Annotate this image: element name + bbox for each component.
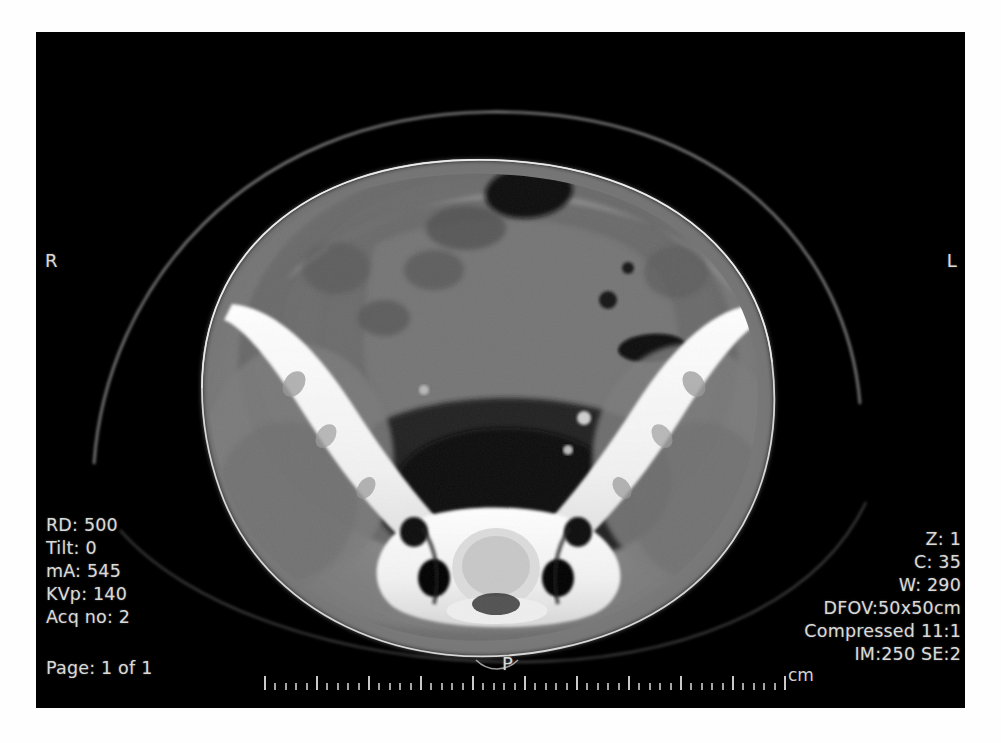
ruler-tick-minor [462,683,464,690]
ruler-tick-minor [566,683,568,690]
ruler-tick-minor [493,683,495,690]
rd-value: RD: 500 [46,514,130,537]
ruler-tick-major [576,676,578,690]
ruler-tick-minor [586,683,588,690]
ruler-tick-minor [295,683,297,690]
acquisition-parameters: RD: 500 Tilt: 0 mA: 545 KVp: 140 Acq no:… [46,514,130,629]
ruler-tick-major [316,676,318,690]
ruler-tick-minor [545,683,547,690]
ruler-tick-minor [451,683,453,690]
ruler-tick-minor [389,683,391,690]
ruler-tick-minor [742,683,744,690]
ruler-tick-minor [378,683,380,690]
ma-value: mA: 545 [46,560,130,583]
ct-image-frame[interactable]: RD: 500 Tilt: 0 mA: 545 KVp: 140 Acq no:… [36,32,965,708]
dfov-value: DFOV:50x50cm [804,597,961,620]
ruler-tick-minor [690,683,692,690]
ruler-tick-minor [659,683,661,690]
ct-viewer-page: RD: 500 Tilt: 0 mA: 545 KVp: 140 Acq no:… [0,0,1001,743]
ruler-tick-minor [358,683,360,690]
ruler-tick-minor [441,683,443,690]
ruler-tick-minor [607,683,609,690]
ruler-tick-minor [649,683,651,690]
ruler-tick-minor [618,683,620,690]
ruler-tick-minor [337,683,339,690]
zoom-value: Z: 1 [804,528,961,551]
scale-unit-label: cm [788,665,814,685]
ruler-tick-major [420,676,422,690]
ruler-tick-minor [774,683,776,690]
ruler-tick-minor [638,683,640,690]
ruler-tick-minor [285,683,287,690]
ruler-tick-major [628,676,630,690]
ruler-tick-major [524,676,526,690]
ruler-tick-minor [274,683,276,690]
ruler-tick-minor [514,683,516,690]
ruler-tick-minor [555,683,557,690]
tilt-value: Tilt: 0 [46,537,130,560]
ruler-tick-minor [534,683,536,690]
acq-no-value: Acq no: 2 [46,606,130,629]
ruler-tick-minor [701,683,703,690]
ruler-tick-minor [430,683,432,690]
image-series-value: IM:250 SE:2 [804,643,961,666]
ruler-tick-major [472,676,474,690]
ruler-tick-minor [670,683,672,690]
ruler-tick-minor [722,683,724,690]
display-parameters: Z: 1 C: 35 W: 290 DFOV:50x50cm Compresse… [804,528,961,666]
ruler-tick-minor [347,683,349,690]
ruler-tick-minor [482,683,484,690]
ruler-tick-minor [753,683,755,690]
orientation-marker-left: L [947,249,957,272]
ruler-tick-minor [399,683,401,690]
ruler-tick-major [784,676,786,690]
ruler-tick-major [732,676,734,690]
window-center-value: C: 35 [804,551,961,574]
ruler-tick-minor [410,683,412,690]
ruler-tick-major [264,676,266,690]
kvp-value: KVp: 140 [46,583,130,606]
ruler-tick-minor [711,683,713,690]
ruler-tick-minor [503,683,505,690]
ruler-tick-major [680,676,682,690]
scale-ruler [264,668,784,690]
orientation-marker-right: R [45,249,58,272]
compression-value: Compressed 11:1 [804,620,961,643]
ruler-tick-minor [763,683,765,690]
ruler-tick-minor [306,683,308,690]
page-indicator: Page: 1 of 1 [46,657,153,680]
ruler-tick-major [368,676,370,690]
ruler-tick-minor [597,683,599,690]
ruler-tick-minor [326,683,328,690]
window-width-value: W: 290 [804,574,961,597]
